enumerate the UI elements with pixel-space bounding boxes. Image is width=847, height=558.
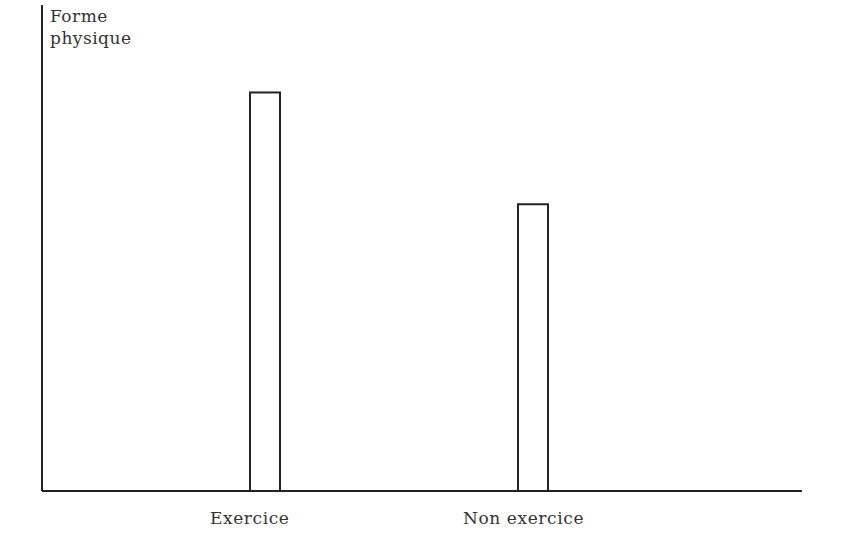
bar-chart: Forme physique Exercice Non exercice: [0, 0, 847, 558]
x-tick-label-non-exercice: Non exercice: [463, 508, 584, 528]
chart-plot-area: [0, 0, 847, 558]
bar-non-exercice: [518, 204, 548, 491]
bar-exercice: [250, 92, 280, 491]
y-axis-label: Forme physique: [50, 5, 132, 49]
bars-group: [250, 92, 548, 491]
x-tick-label-exercice: Exercice: [210, 508, 290, 528]
